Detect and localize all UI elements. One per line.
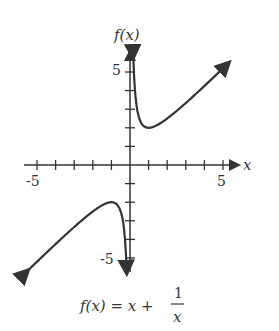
y-axis-label: f(x) bbox=[113, 26, 140, 44]
formula-denominator: x bbox=[173, 308, 182, 326]
y-tick-label-neg5: -5 bbox=[100, 251, 114, 267]
formula-numerator: 1 bbox=[174, 285, 183, 301]
x-axis-label: x bbox=[243, 156, 252, 174]
y-tick-label-5: 5 bbox=[112, 62, 121, 78]
formula-lhs: f(x) = x + bbox=[79, 297, 154, 315]
x-tick-label-neg5: -5 bbox=[26, 173, 40, 189]
curve-positive-branch bbox=[133, 57, 228, 128]
function-graph: f(x) x -5 5 5 -5 f(x) = x + 1 x bbox=[0, 0, 279, 331]
x-tick-label-5: 5 bbox=[217, 173, 226, 189]
